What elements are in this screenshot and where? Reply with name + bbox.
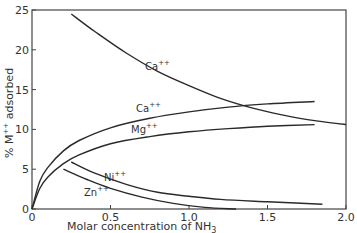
y-tick-label: 5 [22, 163, 29, 176]
y-tick-label: 20 [15, 44, 29, 57]
series-curve-ni [71, 162, 322, 204]
series-label-zn: Zn++ [84, 185, 109, 198]
x-tick-label: 1.5 [259, 211, 277, 224]
series-curve-mg [32, 125, 315, 209]
y-tick-label: 0 [22, 203, 29, 216]
axis-ticks: 00.51.01.52.00510152025 [15, 4, 355, 224]
x-axis-label: Molar concentration of NH3 [67, 220, 216, 233]
series-curve-ca [32, 102, 315, 210]
series-label-ca-mid: Ca++ [136, 101, 161, 114]
series-curve-ca [71, 14, 346, 125]
y-axis-label: % M++ adsorbed [2, 68, 16, 158]
series-label-mg: Mg++ [131, 122, 158, 135]
chart: 00.51.01.52.00510152025 Ca++ Ca++ Mg++ N… [0, 0, 357, 233]
plot-frame [32, 10, 346, 209]
data-curves [32, 14, 346, 209]
plot-border [32, 10, 346, 209]
y-tick-label: 15 [15, 84, 29, 97]
x-tick-label: 0 [29, 211, 36, 224]
x-tick-label: 2.0 [337, 211, 355, 224]
series-label-ca-top: Ca++ [145, 59, 170, 72]
y-tick-label: 25 [15, 4, 29, 17]
y-tick-label: 10 [15, 123, 29, 136]
